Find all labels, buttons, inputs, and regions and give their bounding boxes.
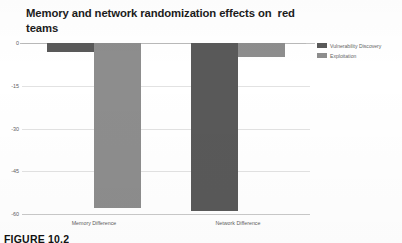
y-axis-tick-label: -30: [0, 126, 19, 132]
legend-item: Vulnerability Discovery: [317, 41, 402, 50]
bar-group: [191, 43, 285, 214]
y-axis-tick-label: -15: [0, 83, 19, 89]
plot-area: [22, 43, 310, 214]
y-axis-tick-label: -45: [0, 168, 19, 174]
legend-item-label: Vulnerability Discovery: [330, 43, 381, 49]
gridline: [22, 214, 310, 215]
figure-caption: FIGURE 10.2: [4, 233, 69, 243]
x-axis-category-label: Network Difference: [166, 220, 310, 227]
figure-container: Memory and network randomization effects…: [0, 0, 402, 243]
legend-color-swatch: [317, 43, 327, 48]
chart-legend: Vulnerability DiscoveryExploitation: [317, 41, 402, 61]
y-axis-tick-label: -60: [0, 211, 19, 217]
legend-connector-line: [306, 43, 315, 44]
chart-title: Memory and network randomization effects…: [26, 6, 301, 35]
legend-item-label: Exploitation: [330, 53, 356, 59]
y-axis-tick-label: 0: [0, 40, 19, 46]
bar: [238, 43, 285, 57]
bar: [191, 43, 238, 211]
legend-item: Exploitation: [317, 51, 402, 60]
x-axis-category-label: Memory Difference: [22, 220, 166, 227]
bar-group: [47, 43, 141, 214]
bar: [94, 43, 141, 208]
legend-color-swatch: [317, 53, 327, 58]
bar: [47, 43, 94, 52]
